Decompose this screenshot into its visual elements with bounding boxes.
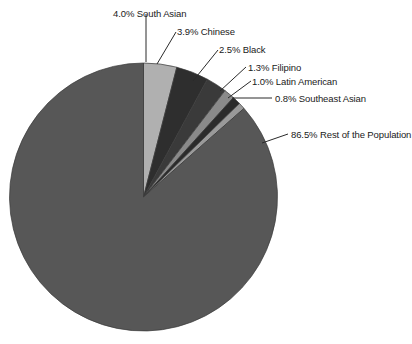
- pie-slice-group: [9, 63, 277, 331]
- pie-chart-canvas: [0, 0, 412, 344]
- slice-label-filipino: 1.3% Filipino: [248, 62, 301, 73]
- slice-label-black: 2.5% Black: [219, 44, 266, 55]
- leader-line-latin-american: [228, 81, 251, 98]
- leader-line-black: [193, 50, 218, 81]
- pie-chart-figure: 4.0% South Asian 3.9% Chinese 2.5% Black…: [0, 0, 412, 344]
- slice-label-southeast-asian: 0.8% Southeast Asian: [275, 93, 366, 104]
- leader-line-chinese: [157, 32, 176, 64]
- slice-label-south-asian: 4.0% South Asian: [113, 8, 186, 19]
- leader-line-rest: [262, 134, 288, 143]
- slice-label-rest-of-population: 86.5% Rest of the Population: [291, 129, 411, 140]
- slice-label-latin-american: 1.0% Latin American: [252, 76, 337, 87]
- slice-label-chinese: 3.9% Chinese: [177, 26, 235, 37]
